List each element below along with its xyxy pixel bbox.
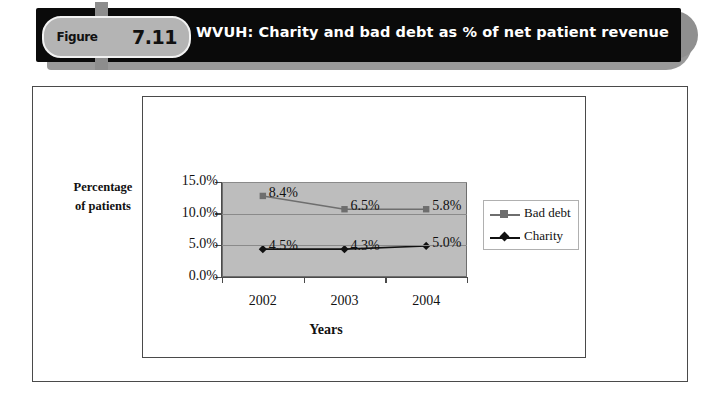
- chart-inner-frame: [142, 96, 586, 358]
- figure-title: WVUH: Charity and bad debt as % of net p…: [196, 24, 669, 40]
- figure-banner: Figure 7.11 WVUH: Charity and bad debt a…: [0, 0, 719, 78]
- figure-number: 7.11: [120, 26, 189, 48]
- figure-badge: Figure 7.11: [42, 16, 191, 58]
- figure-label: Figure: [48, 30, 106, 44]
